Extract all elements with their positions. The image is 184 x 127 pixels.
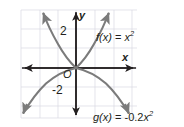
- y-axis-label: y: [79, 10, 85, 21]
- curve-label-g-name: g(x): [93, 111, 112, 123]
- curve-label-g: g(x) = -0.2x2: [93, 110, 153, 123]
- graph-figure: 2 -2 O x y f(x) = x2 g(x) = -0.2x2: [0, 0, 184, 127]
- curve-label-f-exponent: 2: [130, 29, 134, 38]
- graph-canvas: [0, 0, 184, 127]
- origin-label: O: [63, 69, 72, 80]
- curve-label-g-equals: =: [115, 111, 121, 123]
- curve-label-g-exponent: 2: [149, 109, 153, 118]
- curve-label-f: f(x) = x2: [96, 30, 134, 43]
- y-tick-label-2: 2: [60, 25, 67, 37]
- curve-label-f-equals: =: [115, 31, 121, 43]
- y-tick-label-negative-2: -2: [52, 84, 63, 96]
- curve-label-f-name: f(x): [96, 31, 112, 43]
- x-axis-label: x: [122, 52, 128, 63]
- curve-label-g-coefficient: -0.2: [125, 111, 144, 123]
